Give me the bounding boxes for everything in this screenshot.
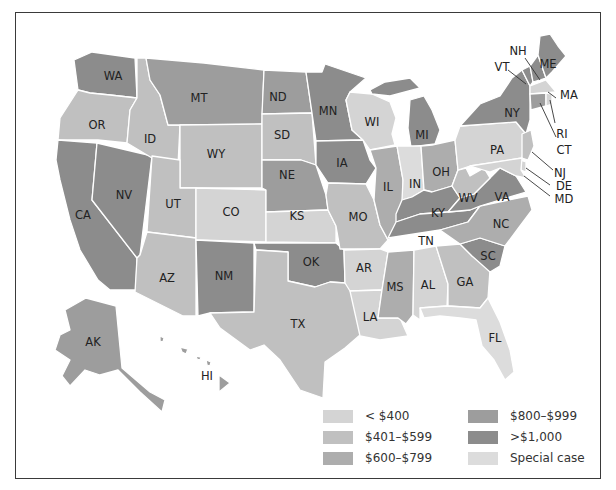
- legend-item-800-999: $800–$999: [468, 407, 577, 425]
- leader-line-ct: [540, 103, 556, 137]
- legend-item-gt1000: >$1,000: [468, 428, 562, 446]
- label-AR: AR: [356, 261, 372, 275]
- legend-label: Special case: [510, 451, 585, 465]
- label-CT: CT: [556, 143, 572, 157]
- label-DE: DE: [556, 179, 572, 193]
- legend-swatch: [468, 410, 498, 423]
- label-WI: WI: [365, 115, 380, 129]
- label-CA: CA: [75, 208, 91, 222]
- legend-item-401-599: $401–$599: [323, 428, 432, 446]
- label-KY: KY: [431, 206, 446, 220]
- leader-line-de: [526, 168, 550, 185]
- state-HI-islands-3[interactable]: [196, 356, 201, 360]
- label-NJ: NJ: [554, 166, 566, 180]
- state-NJ[interactable]: [522, 130, 534, 160]
- legend-swatch: [323, 431, 353, 444]
- legend-label: $401–$599: [365, 430, 432, 444]
- legend-swatch: [468, 431, 498, 444]
- legend: < $400 $401–$599 $600–$799 $800–$999 >$1…: [320, 404, 600, 474]
- leader-line-md: [524, 176, 550, 196]
- state-HI-islands-1[interactable]: [160, 336, 164, 342]
- label-ND: ND: [269, 90, 287, 104]
- legend-item-lt400: < $400: [323, 407, 409, 425]
- label-MO: MO: [349, 210, 368, 224]
- legend-label: >$1,000: [510, 430, 562, 444]
- label-WA: WA: [104, 69, 123, 83]
- state-OR[interactable]: [58, 90, 137, 143]
- label-WV: WV: [458, 191, 477, 205]
- label-ME: ME: [539, 57, 556, 71]
- label-NH: NH: [509, 44, 526, 58]
- state-HI-islands-4[interactable]: [206, 360, 211, 366]
- label-IA: IA: [336, 156, 347, 170]
- label-MD: MD: [555, 192, 574, 206]
- label-OH: OH: [432, 165, 450, 179]
- label-NM: NM: [215, 269, 234, 283]
- label-RI: RI: [556, 127, 567, 141]
- label-MN: MN: [319, 104, 338, 118]
- label-AZ: AZ: [159, 271, 175, 285]
- leader-line-nj: [532, 152, 553, 170]
- label-VA: VA: [495, 190, 510, 204]
- label-SC: SC: [480, 249, 495, 263]
- label-NY: NY: [504, 106, 521, 120]
- label-AL: AL: [421, 278, 436, 292]
- label-UT: UT: [165, 197, 181, 211]
- label-HI: HI: [201, 369, 213, 383]
- label-KS: KS: [290, 209, 305, 223]
- label-MI: MI: [415, 128, 428, 142]
- state-HI-islands-2[interactable]: [180, 347, 188, 354]
- label-MS: MS: [386, 280, 403, 294]
- state-AK[interactable]: [55, 298, 165, 412]
- label-AK: AK: [85, 335, 101, 349]
- label-ID: ID: [144, 132, 156, 146]
- legend-swatch: [323, 410, 353, 423]
- label-MT: MT: [191, 91, 209, 105]
- label-MA: MA: [560, 88, 578, 102]
- label-TX: TX: [290, 317, 306, 331]
- label-VT: VT: [495, 60, 511, 74]
- label-OK: OK: [303, 255, 320, 269]
- label-FL: FL: [488, 331, 502, 345]
- legend-item-600-799: $600–$799: [323, 449, 432, 467]
- legend-item-special-case: Special case: [468, 449, 585, 467]
- label-IN: IN: [409, 177, 421, 191]
- label-NC: NC: [493, 217, 510, 231]
- label-WY: WY: [207, 147, 226, 161]
- label-GA: GA: [457, 275, 474, 289]
- legend-label: $800–$999: [510, 409, 577, 423]
- label-OR: OR: [88, 118, 105, 132]
- legend-label: < $400: [365, 409, 409, 423]
- legend-swatch: [323, 452, 353, 465]
- legend-label: $600–$799: [365, 451, 432, 465]
- label-NE: NE: [279, 168, 295, 182]
- state-MI[interactable]: [370, 78, 420, 96]
- label-PA: PA: [490, 143, 504, 157]
- state-HI[interactable]: [219, 375, 230, 392]
- label-SD: SD: [274, 128, 290, 142]
- label-NV: NV: [116, 188, 133, 202]
- state-CT[interactable]: [530, 93, 546, 110]
- label-IL: IL: [383, 180, 393, 194]
- label-TN: TN: [417, 234, 434, 248]
- legend-swatch: [468, 452, 498, 465]
- label-CO: CO: [222, 205, 239, 219]
- label-LA: LA: [363, 310, 378, 324]
